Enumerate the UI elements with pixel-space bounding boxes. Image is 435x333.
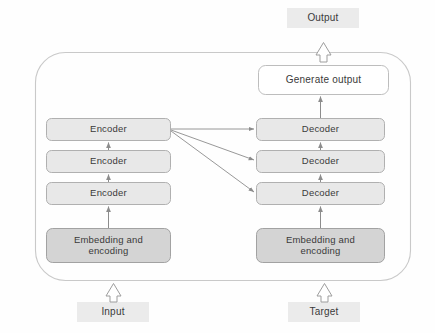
input-label-plate (77, 302, 149, 322)
diagram-canvas (0, 0, 435, 333)
encoder-embedding-box[interactable] (47, 229, 171, 263)
output-label-plate (287, 8, 359, 28)
decoder-embedding-box[interactable] (257, 229, 385, 263)
encoder-3-box[interactable] (47, 119, 171, 141)
decoder-2-box[interactable] (257, 151, 385, 173)
encoder-2-box[interactable] (47, 151, 171, 173)
transformer-diagram: Output Generate output Encoder Encoder E… (0, 0, 435, 333)
encoder-1-box[interactable] (47, 183, 171, 205)
decoder-3-box[interactable] (257, 119, 385, 141)
generate-output-box[interactable] (259, 66, 389, 95)
input-block-arrow-icon (106, 284, 121, 303)
target-block-arrow-icon (317, 284, 332, 303)
decoder-1-box[interactable] (257, 183, 385, 205)
target-label-plate (288, 302, 360, 322)
